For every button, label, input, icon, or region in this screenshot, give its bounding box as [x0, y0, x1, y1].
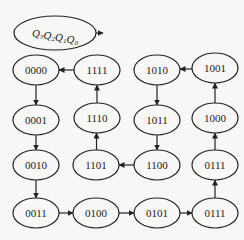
state-node: 0100: [73, 198, 119, 228]
state-label: 0111: [204, 207, 225, 219]
state-node: 1001: [192, 53, 238, 83]
state-node: 0111: [192, 150, 238, 180]
state-node: 0101: [134, 198, 180, 228]
state-label: 1010: [146, 64, 169, 76]
legend: Q3Q2Q1Q0: [14, 16, 103, 50]
state-label: 1110: [86, 112, 108, 124]
state-node: 0000: [13, 55, 59, 85]
state-node: 0010: [13, 150, 59, 180]
state-label: 1100: [146, 159, 168, 171]
state-label: 0100: [85, 207, 108, 219]
state-node: 1101: [73, 150, 119, 180]
state-label: 1011: [146, 114, 168, 126]
state-diagram: Q3Q2Q1Q0 0000111110101001000111101011100…: [0, 0, 244, 240]
state-node: 1110: [74, 103, 120, 133]
state-label: 0001: [25, 114, 47, 126]
state-label: 0101: [146, 207, 168, 219]
state-label: 0111: [204, 159, 225, 171]
state-label: 1000: [204, 112, 227, 124]
state-node: 1010: [134, 55, 180, 85]
state-label: 1101: [85, 159, 107, 171]
state-label: 0010: [25, 159, 48, 171]
states: 0000111110101001000111101011100000101101…: [13, 53, 238, 228]
state-label: 1111: [87, 64, 108, 76]
state-node: 1000: [192, 103, 238, 133]
state-label: 1001: [204, 62, 226, 74]
state-node: 1011: [134, 105, 180, 135]
state-node: 0111: [192, 198, 238, 228]
transitions: [36, 69, 215, 213]
state-node: 0011: [13, 198, 59, 228]
state-node: 0001: [13, 105, 59, 135]
state-label: 0000: [25, 64, 48, 76]
state-node: 1111: [74, 55, 120, 85]
state-node: 1100: [134, 150, 180, 180]
state-label: 0011: [25, 207, 47, 219]
